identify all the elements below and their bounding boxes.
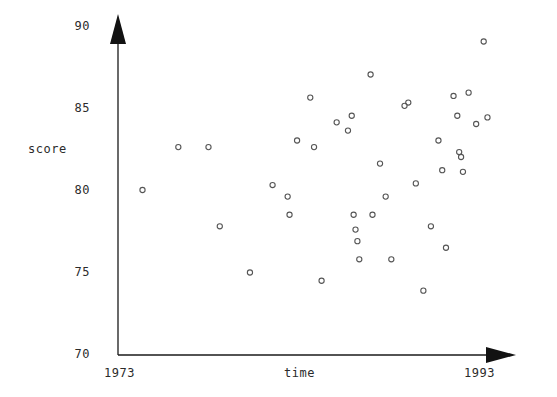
data-point — [349, 113, 354, 118]
data-point — [368, 72, 373, 77]
data-point — [377, 161, 382, 166]
data-point — [308, 95, 313, 100]
data-point — [460, 169, 465, 174]
data-point — [440, 168, 445, 173]
data-point — [357, 257, 362, 262]
data-point — [485, 115, 490, 120]
data-point — [455, 113, 460, 118]
y-tick-label-70: 70 — [62, 347, 90, 361]
y-tick-label-80: 80 — [62, 183, 90, 197]
data-point — [474, 121, 479, 126]
axes-group — [110, 14, 516, 363]
data-point — [481, 39, 486, 44]
data-point — [406, 100, 411, 105]
data-point — [389, 257, 394, 262]
data-point — [140, 187, 145, 192]
plot-canvas — [0, 0, 557, 397]
data-point — [421, 288, 426, 293]
data-point — [270, 182, 275, 187]
y-tick-label-75: 75 — [62, 265, 90, 279]
data-point — [217, 224, 222, 229]
y-tick-label-85: 85 — [62, 101, 90, 115]
data-point — [413, 181, 418, 186]
x-axis-title: time — [284, 366, 315, 380]
y-tick-label-90: 90 — [62, 19, 90, 33]
data-point — [285, 194, 290, 199]
data-point — [355, 239, 360, 244]
data-point — [319, 278, 324, 283]
data-point — [287, 212, 292, 217]
data-point — [428, 224, 433, 229]
x-axis-start-label: 1973 — [104, 366, 135, 380]
x-axis-arrowhead — [486, 347, 516, 363]
data-point — [176, 145, 181, 150]
data-point — [458, 154, 463, 159]
data-points-group — [140, 39, 490, 293]
data-point — [206, 145, 211, 150]
data-point — [383, 194, 388, 199]
x-axis-end-label: 1993 — [464, 366, 495, 380]
data-point — [466, 90, 471, 95]
data-point — [294, 138, 299, 143]
data-point — [353, 227, 358, 232]
data-point — [443, 245, 448, 250]
data-point — [370, 212, 375, 217]
data-point — [345, 128, 350, 133]
scatter-plot-figure: 90 85 80 75 70 score 1973 1993 time — [0, 0, 557, 397]
y-axis-arrowhead — [110, 14, 126, 44]
data-point — [311, 145, 316, 150]
data-point — [334, 120, 339, 125]
data-point — [247, 270, 252, 275]
data-point — [436, 138, 441, 143]
data-point — [351, 212, 356, 217]
data-point — [451, 93, 456, 98]
y-axis-title: score — [28, 142, 67, 156]
